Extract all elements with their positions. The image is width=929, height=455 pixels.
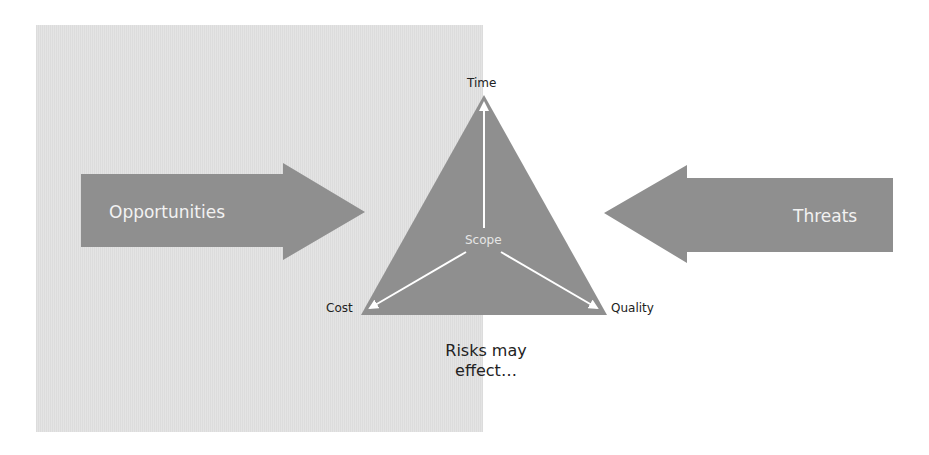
risks-caption: Risks may effect… (426, 341, 546, 381)
quality-label: Quality (611, 301, 654, 315)
caption-line-1: Risks may (426, 341, 546, 361)
cost-label: Cost (326, 301, 353, 315)
scope-label: Scope (465, 233, 502, 247)
diagram-shapes (0, 0, 929, 455)
opportunities-label: Opportunities (109, 202, 225, 222)
caption-line-2: effect… (426, 361, 546, 381)
time-label: Time (467, 76, 496, 90)
threats-label: Threats (793, 206, 857, 226)
